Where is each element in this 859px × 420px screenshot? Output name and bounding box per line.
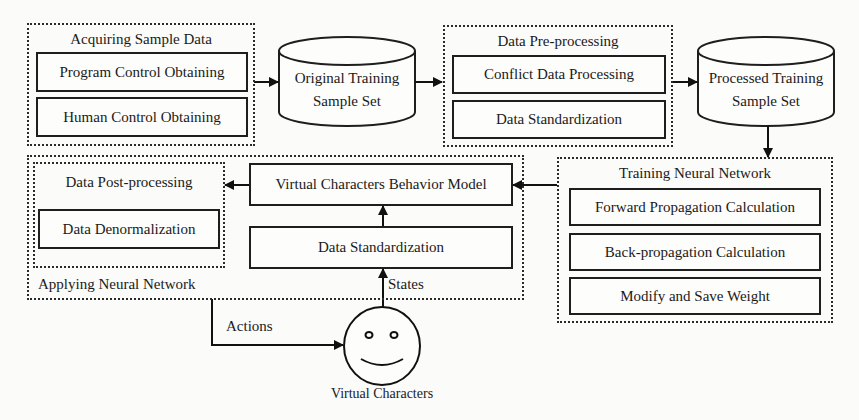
group-title-postprocessing: Data Post-processing [33, 174, 225, 191]
datastore-processed-line2: Sample Set [698, 90, 834, 113]
group-title-preprocessing: Data Pre-processing [443, 33, 673, 50]
datastore-original-line2: Sample Set [279, 90, 415, 113]
datastore-original-line1: Original Training [279, 67, 415, 90]
datastore-processed-label: Processed Training Sample Set [698, 67, 834, 113]
datastore-original-label: Original Training Sample Set [279, 67, 415, 113]
box-conflict-data-processing: Conflict Data Processing [452, 55, 666, 94]
group-title-applying: Applying Neural Network [38, 276, 195, 293]
edge-label-actions: Actions [226, 318, 273, 335]
box-behavior-model: Virtual Characters Behavior Model [249, 163, 513, 206]
actor-label-virtual-characters: Virtual Characters [302, 386, 462, 402]
box-back-propagation: Back-propagation Calculation [569, 233, 821, 271]
group-title-acquiring: Acquiring Sample Data [27, 31, 255, 48]
box-modify-save-weight: Modify and Save Weight [569, 277, 821, 315]
box-program-control-obtaining: Program Control Obtaining [36, 52, 248, 92]
datastore-processed-line1: Processed Training [698, 67, 834, 90]
box-forward-propagation: Forward Propagation Calculation [569, 188, 821, 226]
box-data-standardization-apply: Data Standardization [249, 226, 513, 269]
box-human-control-obtaining: Human Control Obtaining [36, 97, 248, 137]
smiley-face-icon [344, 307, 420, 385]
box-data-standardization-pre: Data Standardization [452, 100, 666, 139]
box-data-denormalization: Data Denormalization [38, 209, 220, 249]
group-title-training: Training Neural Network [557, 165, 833, 182]
edge-label-states: States [388, 276, 424, 293]
